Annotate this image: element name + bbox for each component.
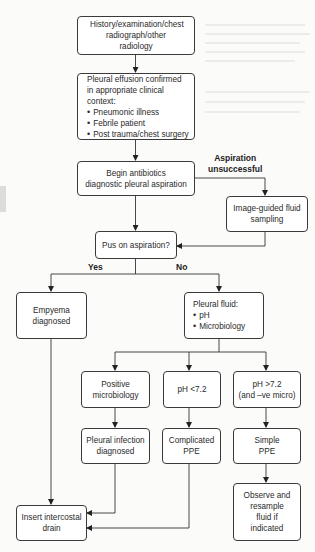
node-empyema-diagnosed: Empyema diagnosed: [16, 292, 87, 339]
node-begin-antibiotics: Begin antibiotics diagnostic pleural asp…: [77, 161, 195, 196]
node-line: Pleural infection: [86, 435, 144, 446]
node-line: Simple: [254, 435, 279, 446]
node-observe-and-resample: Observe and resample fluid if indicated: [233, 483, 301, 541]
node-pleural-effusion-confirmed: Pleural effusion confirmed in appropriat…: [77, 73, 195, 140]
node-title: Pleural fluid:: [193, 299, 238, 310]
node-line: PPE: [183, 446, 199, 457]
node-line: diagnostic pleural aspiration: [85, 179, 187, 190]
node-pus-on-aspiration: Pus on aspiration?: [95, 231, 177, 259]
node-line: Complicated: [169, 435, 215, 446]
bullet-item: pH: [193, 310, 245, 321]
node-line: diagnosed: [33, 316, 71, 327]
node-positive-microbiology: Positive microbiology: [81, 371, 150, 408]
bullet-item: Febrile patient: [87, 118, 189, 129]
node-line: (and –ve micro): [239, 390, 296, 401]
node-line: diagnosed: [97, 446, 135, 457]
edge-label-no: No: [176, 262, 187, 273]
node-line: PPE: [259, 446, 275, 457]
bullet-list: Pneumonic illness Febrile patient Post t…: [87, 107, 189, 140]
node-pleural-fluid: Pleural fluid: pH Microbiology: [184, 292, 264, 339]
node-complicated-ppe: Complicated PPE: [162, 428, 221, 464]
edge-label-yes: Yes: [88, 262, 103, 273]
node-line: Observe and: [244, 490, 291, 501]
bullet-item: Microbiology: [193, 321, 245, 332]
node-line: Begin antibiotics: [106, 168, 166, 179]
node-ph-below-7-2: pH <7.2: [163, 371, 221, 408]
bullet-item: Post trauma/chest surgery: [87, 129, 189, 140]
node-line: fluid if: [256, 512, 277, 523]
node-line: microbiology: [93, 390, 139, 401]
edge-label-aspiration-unsuccessful: Aspiration unsuccessful: [208, 153, 262, 175]
node-line: Empyema: [33, 305, 70, 316]
label-line: Aspiration: [208, 153, 262, 164]
node-line: resample: [250, 501, 284, 512]
node-text: History/examination/chest radiograph/oth…: [90, 19, 182, 52]
node-line: indicated: [251, 523, 284, 534]
node-title: Pleural effusion confirmed in appropriat…: [87, 74, 190, 107]
node-image-guided-sampling: Image-guided fluid sampling: [226, 196, 308, 232]
node-line: Positive: [101, 379, 130, 390]
node-history-examination: History/examination/chest radiograph/oth…: [77, 16, 195, 55]
node-line: pH >7.2: [253, 379, 282, 390]
node-simple-ppe: Simple PPE: [233, 428, 301, 464]
node-line: drain: [42, 523, 60, 534]
node-ph-above-7-2: pH >7.2 (and –ve micro): [233, 371, 301, 408]
node-insert-intercostal-drain: Insert intercostal drain: [16, 505, 87, 541]
node-line: Image-guided fluid: [233, 203, 300, 214]
bullet-item: Pneumonic illness: [87, 107, 189, 118]
node-text: pH <7.2: [178, 384, 207, 395]
label-line: unsuccessful: [208, 164, 262, 175]
node-line: Insert intercostal: [21, 512, 81, 523]
node-line: sampling: [251, 214, 284, 225]
bullet-list: pH Microbiology: [193, 310, 245, 332]
node-text: Pus on aspiration?: [102, 240, 170, 251]
node-pleural-infection-diagnosed: Pleural infection diagnosed: [81, 428, 150, 464]
